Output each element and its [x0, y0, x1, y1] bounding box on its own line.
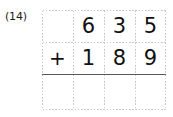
cell-top-thousands[interactable]: [42, 10, 73, 42]
digit-value: 3: [113, 16, 126, 37]
cell-top-ones[interactable]: 5: [135, 10, 166, 42]
digit-value: 1: [82, 48, 95, 69]
cell-answer-thousands[interactable]: [42, 74, 73, 110]
cell-answer-ones[interactable]: [135, 74, 166, 110]
cell-top-tens[interactable]: 3: [104, 10, 135, 42]
plus-icon: +: [49, 48, 66, 68]
digit-value: 6: [82, 16, 95, 37]
cell-answer-hundreds[interactable]: [73, 74, 104, 110]
cell-top-hundreds[interactable]: 6: [73, 10, 104, 42]
math-worksheet-problem: (14) 6 3: [0, 0, 173, 117]
sum-rule-line: [42, 74, 166, 75]
cell-bottom-ones[interactable]: 9: [135, 42, 166, 74]
digit-value: 8: [113, 48, 126, 69]
table-row-bottom-addend: + 1 8 9: [42, 42, 166, 74]
digit-value: 5: [144, 16, 157, 37]
problem-number-label: (14): [5, 11, 27, 22]
cell-operator[interactable]: +: [42, 42, 73, 74]
cell-bottom-tens[interactable]: 8: [104, 42, 135, 74]
vertical-addition-grid: 6 3 5 + 1 8 9: [42, 10, 166, 110]
cell-bottom-hundreds[interactable]: 1: [73, 42, 104, 74]
cell-answer-tens[interactable]: [104, 74, 135, 110]
table-row-answer: [42, 74, 166, 110]
digit-value: 9: [144, 48, 157, 69]
table-row-top-addend: 6 3 5: [42, 10, 166, 42]
